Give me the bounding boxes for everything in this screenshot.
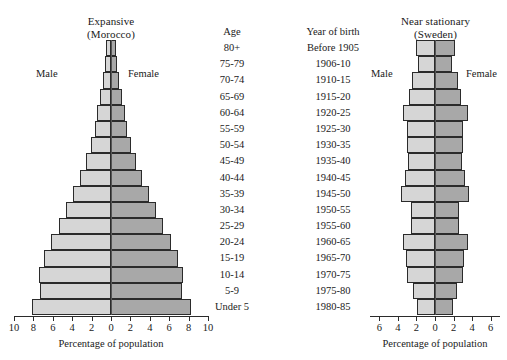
male-bar: [51, 234, 111, 250]
female-bar: [111, 72, 119, 88]
year-label-4: 1920-25: [292, 105, 374, 121]
male-bar: [407, 121, 435, 137]
year-label-12: 1960-65: [292, 234, 374, 250]
age-label-4: 60-64: [205, 105, 259, 121]
female-bar: [435, 121, 463, 137]
x-tick-label: 10: [197, 322, 219, 333]
year-label-14: 1970-75: [292, 267, 374, 283]
male-bar: [406, 250, 435, 266]
male-bar: [73, 186, 111, 202]
x-tick: [92, 316, 93, 321]
sweden-title-line1: Near stationary: [378, 15, 493, 28]
age-label-1: 75-79: [205, 56, 259, 72]
year-label-16: 1980-85: [292, 299, 374, 315]
sweden-x-axis-title: Percentage of population: [360, 338, 507, 349]
female-bar: [111, 234, 171, 250]
age-label-11: 25-29: [205, 218, 259, 234]
male-bar: [407, 267, 435, 283]
female-bar: [435, 250, 464, 266]
x-tick-label: 6: [480, 322, 502, 333]
x-tick: [72, 316, 73, 321]
female-bar: [435, 267, 463, 283]
male-bar: [59, 218, 111, 234]
age-label-7: 45-49: [205, 153, 259, 169]
female-bar: [435, 89, 461, 105]
year-label-7: 1935-40: [292, 153, 374, 169]
female-bar: [435, 40, 455, 56]
male-bar: [408, 153, 435, 169]
age-column-rows: 80+75-7970-7465-6960-6455-5950-5445-4940…: [205, 40, 259, 315]
year-label-5: 1925-30: [292, 121, 374, 137]
morocco-title-line1: Expansive: [56, 15, 166, 28]
male-bar: [416, 40, 436, 56]
male-bar: [413, 283, 435, 299]
male-bar: [66, 202, 111, 218]
year-label-13: 1965-70: [292, 250, 374, 266]
male-bar: [412, 72, 435, 88]
age-label-0: 80+: [205, 40, 259, 56]
male-bar: [80, 170, 111, 186]
female-bar: [435, 137, 463, 153]
year-label-1: 1906-10: [292, 56, 374, 72]
male-bar: [32, 299, 111, 315]
year-column-header: Year of birth: [292, 24, 374, 40]
male-bar: [409, 89, 435, 105]
male-bar: [100, 89, 111, 105]
female-bar: [435, 202, 459, 218]
x-tick: [150, 316, 151, 321]
age-label-12: 20-24: [205, 234, 259, 250]
female-bar: [111, 89, 122, 105]
female-bar: [111, 153, 136, 169]
age-label-13: 15-19: [205, 250, 259, 266]
x-tick: [189, 316, 190, 321]
year-label-15: 1975-80: [292, 283, 374, 299]
female-bar: [435, 56, 452, 72]
male-bar: [97, 105, 111, 121]
x-tick: [379, 316, 380, 321]
x-tick: [416, 316, 417, 321]
age-label-column: Age 80+75-7970-7465-6960-6455-5950-5445-…: [205, 24, 259, 315]
female-bar: [435, 299, 453, 315]
female-bar: [111, 186, 149, 202]
x-tick: [33, 316, 34, 321]
male-bar: [39, 267, 111, 283]
female-bar: [111, 202, 156, 218]
x-tick: [454, 316, 455, 321]
year-label-8: 1940-45: [292, 170, 374, 186]
female-bar: [111, 105, 125, 121]
male-bar: [418, 56, 435, 72]
year-label-2: 1910-15: [292, 72, 374, 88]
year-label-10: 1950-55: [292, 202, 374, 218]
sweden-title-line2: (Sweden): [378, 28, 493, 41]
age-label-14: 10-14: [205, 267, 259, 283]
male-bar: [103, 72, 111, 88]
male-bar: [411, 218, 435, 234]
male-bar: [91, 137, 111, 153]
age-label-9: 35-39: [205, 186, 259, 202]
year-label-6: 1930-35: [292, 137, 374, 153]
female-bar: [435, 234, 468, 250]
female-bar: [435, 72, 458, 88]
morocco-x-axis-title: Percentage of population: [14, 338, 208, 349]
male-bar: [403, 234, 436, 250]
x-tick: [130, 316, 131, 321]
population-pyramid-figure: Expansive (Morocco) Male Female 10864202…: [0, 0, 507, 360]
sweden-panel-title: Near stationary (Sweden): [378, 15, 493, 40]
center-axis-line: [435, 40, 436, 315]
sweden-pyramid-plot: [370, 40, 500, 315]
x-tick: [53, 316, 54, 321]
x-tick: [398, 316, 399, 321]
x-tick: [169, 316, 170, 321]
x-tick: [435, 316, 436, 321]
female-bar: [111, 299, 191, 315]
female-bar: [111, 283, 182, 299]
female-bar: [111, 250, 178, 266]
year-column-rows: Before 19051906-101910-151915-201920-251…: [292, 40, 374, 315]
female-bar: [111, 137, 131, 153]
age-column-header: Age: [205, 24, 259, 40]
male-bar: [401, 186, 435, 202]
morocco-panel-title: Expansive (Morocco): [56, 15, 166, 40]
female-bar: [435, 218, 459, 234]
male-bar: [403, 105, 436, 121]
year-label-11: 1955-60: [292, 218, 374, 234]
